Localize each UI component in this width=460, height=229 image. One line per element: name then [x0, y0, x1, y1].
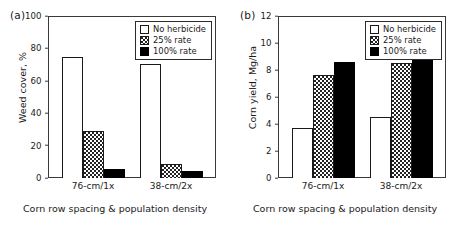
panel-b-y-axis-title: Corn yield, Mg/ha	[246, 0, 260, 175]
y-tick-label: 0	[266, 174, 274, 183]
legend-swatch-icon	[140, 36, 149, 45]
y-tick-label: 80	[31, 44, 45, 53]
y-tick-label: 0	[36, 174, 44, 183]
legend-label: 100% rate	[153, 47, 197, 55]
bar	[313, 75, 334, 178]
y-tick-label: 40	[31, 109, 45, 118]
y-tick-label: 12	[261, 12, 275, 21]
bar-group	[292, 16, 355, 178]
y-tick-label: 4	[266, 120, 274, 129]
bar	[292, 128, 313, 178]
panel-a-x-ticks: 76-cm/1x38-cm/2x	[48, 181, 216, 191]
panel-a-plot-area: 020406080100 No herbicide25% rate100% ra…	[48, 16, 216, 178]
legend-swatch-icon	[370, 25, 379, 34]
legend-label: 25% rate	[153, 36, 191, 44]
legend-swatch-icon	[370, 36, 379, 45]
y-tick-label: 2	[266, 147, 274, 156]
bar	[140, 64, 161, 178]
y-tick: 12	[261, 12, 278, 21]
y-tick: 8	[266, 66, 278, 75]
y-tick-label: 20	[31, 141, 45, 150]
y-tick-label: 8	[266, 66, 274, 75]
legend-label: 25% rate	[383, 36, 421, 44]
y-tick: 0	[36, 174, 48, 183]
legend-item: No herbicide	[140, 25, 206, 34]
y-tick: 100	[25, 12, 48, 21]
x-tick-label: 76-cm/1x	[292, 181, 355, 191]
y-tick: 2	[266, 147, 278, 156]
y-tick: 0	[266, 174, 278, 183]
panel-b-plot-area: 024681012 No herbicide25% rate100% rate	[278, 16, 446, 178]
bar	[334, 62, 355, 178]
bar	[391, 63, 412, 178]
x-tick-label: 76-cm/1x	[62, 181, 125, 191]
legend-swatch-icon	[140, 25, 149, 34]
bar	[182, 171, 203, 178]
legend-label: No herbicide	[153, 25, 206, 33]
panel-b-x-axis-title: Corn row spacing & population density	[230, 203, 460, 214]
bar	[83, 131, 104, 178]
y-tick-label: 60	[31, 77, 45, 86]
legend-swatch-icon	[370, 47, 379, 56]
y-tick: 6	[266, 93, 278, 102]
panel-a-legend: No herbicide25% rate100% rate	[135, 21, 212, 60]
x-tick-label: 38-cm/2x	[140, 181, 203, 191]
y-tick: 4	[266, 120, 278, 129]
x-tick-label: 38-cm/2x	[370, 181, 433, 191]
legend-label: No herbicide	[383, 25, 436, 33]
legend-item: 100% rate	[140, 47, 206, 56]
panel-a-y-axis-title: Weed cover, %	[16, 0, 30, 175]
y-tick: 60	[31, 77, 48, 86]
legend-swatch-icon	[140, 47, 149, 56]
figure-root: (a) Weed cover, % 020406080100 No herbic…	[0, 0, 460, 229]
panel-b-legend: No herbicide25% rate100% rate	[365, 21, 442, 60]
y-tick-label: 6	[266, 93, 274, 102]
y-tick: 80	[31, 44, 48, 53]
legend-item: 25% rate	[370, 36, 436, 45]
bar	[370, 117, 391, 178]
y-tick-label: 10	[261, 39, 275, 48]
y-tick: 10	[261, 39, 278, 48]
legend-label: 100% rate	[383, 47, 427, 55]
bar-group	[62, 16, 125, 178]
panel-a-x-axis-title: Corn row spacing & population density	[0, 203, 230, 214]
y-tick: 20	[31, 141, 48, 150]
panel-b: (b) Corn yield, Mg/ha 024681012 No herbi…	[230, 0, 460, 229]
y-tick-label: 100	[25, 12, 44, 21]
legend-item: No herbicide	[370, 25, 436, 34]
bar	[104, 169, 125, 178]
panel-a: (a) Weed cover, % 020406080100 No herbic…	[0, 0, 230, 229]
panel-b-x-ticks: 76-cm/1x38-cm/2x	[278, 181, 446, 191]
bar	[62, 57, 83, 179]
bar	[412, 59, 433, 178]
legend-item: 100% rate	[370, 47, 436, 56]
bar	[161, 164, 182, 178]
legend-item: 25% rate	[140, 36, 206, 45]
y-tick: 40	[31, 109, 48, 118]
